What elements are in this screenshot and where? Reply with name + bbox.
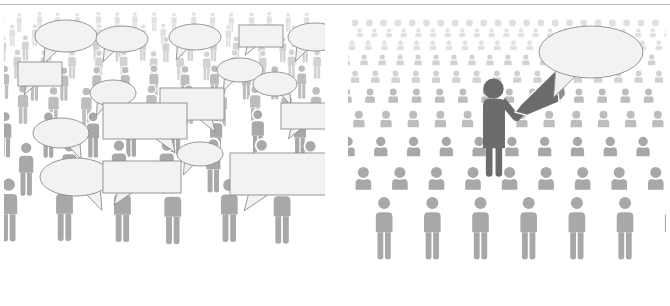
person-shoulders bbox=[459, 33, 466, 38]
person-shoulders bbox=[353, 119, 366, 128]
person-leg-left bbox=[314, 66, 317, 79]
person-head-dot bbox=[366, 20, 373, 27]
person-pictogram-icon bbox=[391, 166, 408, 191]
person-pictogram-icon bbox=[603, 136, 618, 157]
person-head bbox=[4, 112, 10, 122]
person-torso bbox=[568, 211, 587, 233]
bubble-body bbox=[230, 153, 325, 195]
leader-leg-right bbox=[496, 146, 503, 177]
person-shoulders bbox=[494, 45, 501, 50]
person-head bbox=[511, 40, 516, 45]
noisy-crowd-svg bbox=[4, 10, 325, 306]
person-head bbox=[181, 66, 189, 74]
person-head bbox=[229, 12, 233, 16]
person-leg-right bbox=[154, 23, 156, 31]
person-torso bbox=[132, 16, 138, 23]
person-head bbox=[469, 54, 475, 60]
person-head bbox=[152, 12, 156, 16]
person-pictogram-icon bbox=[494, 40, 501, 50]
person-pictogram-icon bbox=[504, 136, 519, 157]
bubble-body bbox=[539, 26, 643, 78]
person-shoulders bbox=[391, 178, 408, 191]
person-torso bbox=[48, 96, 60, 110]
person-head bbox=[147, 85, 156, 94]
person-head bbox=[487, 54, 493, 60]
person-head bbox=[4, 178, 16, 192]
person-shoulders bbox=[461, 45, 468, 50]
person-head bbox=[575, 88, 583, 96]
person-shoulders bbox=[431, 77, 440, 84]
person-head-dot bbox=[566, 20, 573, 27]
person-head bbox=[503, 166, 516, 179]
person-head bbox=[489, 28, 494, 33]
bubble-body bbox=[40, 158, 112, 196]
person-head-dot bbox=[580, 20, 587, 27]
person-head bbox=[172, 12, 176, 16]
person-shoulders bbox=[397, 45, 404, 50]
person-pictogram-icon bbox=[610, 166, 627, 191]
person-pictogram-icon bbox=[397, 40, 404, 50]
crowd-row-icon bbox=[355, 166, 665, 191]
person-head bbox=[249, 12, 253, 16]
person-torso bbox=[249, 17, 255, 24]
person-shoulders bbox=[365, 96, 376, 104]
person-leg-left bbox=[10, 37, 12, 47]
person-head bbox=[430, 40, 435, 45]
person-pictogram-icon bbox=[380, 110, 393, 128]
person-head-dot bbox=[509, 20, 516, 27]
person-pictogram-icon bbox=[428, 166, 445, 191]
person-torso bbox=[4, 193, 18, 215]
person-shoulders bbox=[504, 60, 512, 66]
person-head bbox=[474, 136, 485, 147]
person-head bbox=[163, 37, 169, 43]
person-pictogram-icon bbox=[464, 166, 481, 191]
person-shoulders bbox=[647, 178, 664, 191]
person-head bbox=[17, 13, 21, 17]
person-head bbox=[649, 166, 662, 179]
bubble-body bbox=[103, 103, 187, 139]
person-head bbox=[576, 166, 589, 179]
person-shoulders bbox=[472, 77, 481, 84]
person-shoulders bbox=[636, 146, 651, 157]
person-shoulders bbox=[450, 60, 458, 66]
person-head bbox=[527, 40, 532, 45]
person-shoulders bbox=[597, 119, 610, 128]
person-head bbox=[372, 28, 377, 33]
person-leg-left bbox=[17, 24, 19, 32]
person-torso bbox=[171, 17, 177, 24]
person-pictogram-icon bbox=[468, 54, 476, 66]
person-pictogram-icon bbox=[532, 28, 539, 37]
person-leg-left bbox=[243, 85, 246, 100]
person-shoulders bbox=[620, 96, 631, 104]
person-torso bbox=[297, 73, 307, 85]
person-head bbox=[436, 110, 445, 119]
person-shoulders bbox=[461, 119, 474, 128]
person-shoulders bbox=[429, 45, 436, 50]
person-leg-left bbox=[618, 232, 624, 259]
person-leg-right bbox=[143, 50, 145, 61]
person-head bbox=[412, 70, 419, 77]
person-head-dot bbox=[452, 20, 459, 27]
person-shoulders bbox=[371, 33, 378, 38]
person-shoulders bbox=[452, 77, 461, 84]
person-head bbox=[32, 24, 37, 29]
person-shoulders bbox=[360, 60, 368, 66]
person-head bbox=[638, 136, 649, 147]
bubble-body bbox=[253, 72, 297, 96]
person-head bbox=[618, 196, 632, 210]
person-head bbox=[544, 110, 553, 119]
person-shoulders bbox=[468, 60, 476, 66]
person-leg-left bbox=[275, 216, 281, 243]
person-pictogram-icon bbox=[353, 110, 366, 128]
person-shoulders bbox=[603, 146, 618, 157]
person-shoulders bbox=[512, 77, 521, 84]
person-head bbox=[203, 51, 210, 58]
bubble-body bbox=[33, 118, 89, 148]
person-torso bbox=[81, 97, 93, 111]
person-pictogram-icon bbox=[445, 40, 452, 50]
person-shoulders bbox=[532, 33, 539, 38]
person-head bbox=[401, 28, 406, 33]
person-leg-left bbox=[140, 50, 142, 61]
person-leg-left bbox=[280, 51, 282, 62]
person-shoulders bbox=[428, 178, 445, 191]
